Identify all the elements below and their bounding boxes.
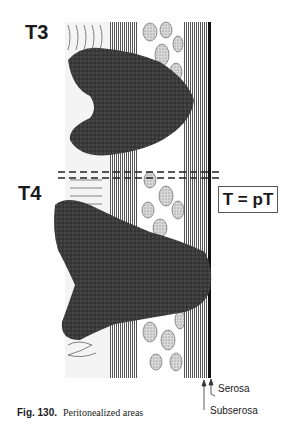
serosa-line [208,22,211,378]
t3-label: T3 [25,22,48,42]
bowel-wall-diagram [0,0,295,446]
subserosa-label: Subserosa [210,405,258,416]
subserosa-layer [184,22,208,378]
figure-title: Peritonealized areas [63,407,143,418]
formula-box: T = pT [218,186,278,213]
t4-label: T4 [18,183,41,203]
figure-caption: Fig. 130.Peritonealized areas [17,407,143,418]
serosa-label: Serosa [218,383,250,394]
figure-number: Fig. 130. [17,407,57,418]
